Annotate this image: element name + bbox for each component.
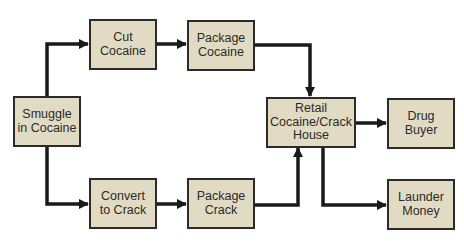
node-label: Retail Cocaine/Crack House bbox=[270, 102, 352, 143]
node-package-crack: Package Crack bbox=[187, 178, 255, 229]
node-label: Cut Cocaine bbox=[100, 31, 146, 58]
node-convert-to-crack: Convert to Crack bbox=[89, 178, 157, 229]
edge-smuggle-to-convert bbox=[47, 146, 88, 204]
node-label: Convert to Crack bbox=[100, 190, 147, 217]
node-package-cocaine: Package Cocaine bbox=[187, 20, 255, 71]
node-label: Smuggle in Cocaine bbox=[17, 108, 76, 135]
node-label: Launder Money bbox=[398, 191, 444, 218]
edge-package-crack-to-retail bbox=[254, 148, 298, 205]
node-launder-money: Launder Money bbox=[387, 179, 455, 230]
edge-retail-to-launder bbox=[323, 147, 386, 205]
node-retail-cocaine-crack-house: Retail Cocaine/Crack House bbox=[266, 97, 356, 148]
node-label: Package Cocaine bbox=[197, 32, 246, 59]
edge-smuggle-to-cut bbox=[47, 44, 88, 96]
node-label: Drug Buyer bbox=[405, 110, 438, 137]
flowchart: Smuggle in Cocaine Cut Cocaine Package C… bbox=[0, 0, 464, 241]
node-drug-buyer: Drug Buyer bbox=[387, 98, 455, 149]
node-smuggle-in-cocaine: Smuggle in Cocaine bbox=[13, 96, 81, 147]
node-label: Package Crack bbox=[197, 190, 246, 217]
edge-package-cocaine-to-retail bbox=[255, 45, 310, 96]
node-cut-cocaine: Cut Cocaine bbox=[89, 19, 157, 70]
